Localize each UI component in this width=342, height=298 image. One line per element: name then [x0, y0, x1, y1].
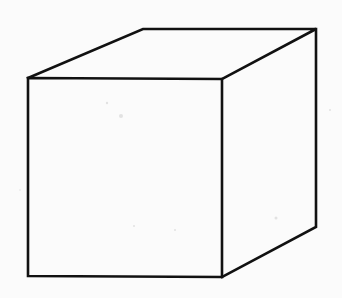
cube-top-face [28, 29, 316, 79]
cube-front-face [28, 78, 222, 277]
paper-noise [19, 102, 331, 231]
cube-diagram [0, 0, 342, 298]
cube-svg [0, 0, 342, 298]
cube-outline [28, 29, 316, 277]
cube-right-face [222, 29, 316, 277]
